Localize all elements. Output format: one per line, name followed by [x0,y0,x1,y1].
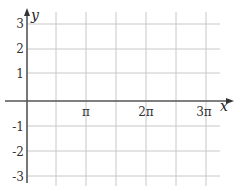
coordinate-plane: y x 3 2 1 -1 -2 -3 π 2π 3π [0,0,239,196]
y-tick-minus-1: -1 [12,120,24,134]
x-tick-2pi: 2π [138,105,154,119]
x-axis-label: x [220,98,228,114]
grid-lines [27,12,220,186]
y-axis-arrow-icon [24,8,30,16]
x-tick-3pi: 3π [196,105,212,119]
y-tick-minus-2: -2 [12,145,24,159]
y-tick-minus-3: -3 [12,170,24,184]
y-tick-2: 2 [16,42,24,56]
x-tick-pi: π [82,105,90,119]
y-tick-1: 1 [16,67,24,81]
y-tick-3: 3 [16,17,24,31]
y-axis-label: y [30,7,40,23]
